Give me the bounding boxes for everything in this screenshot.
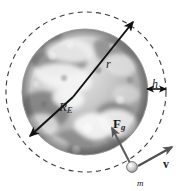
gravitational-force-label: Fg (113, 117, 125, 132)
diagram-canvas (0, 0, 180, 191)
orbital-radius-label: r (106, 58, 111, 70)
gravitational-force-subscript: g (121, 122, 125, 132)
orbit-diagram: r RE h Fg v m (0, 0, 180, 191)
satellite-body (127, 162, 138, 173)
earth-radius-label: RE (59, 100, 72, 115)
earth-radius-subscript: E (67, 105, 72, 115)
velocity-label: v (163, 158, 169, 170)
earth-radius-symbol: R (59, 99, 67, 114)
earth-sphere (22, 29, 149, 157)
altitude-label: h (152, 78, 158, 90)
satellite-mass-label: m (137, 179, 144, 188)
gravitational-force-symbol: F (113, 116, 121, 131)
